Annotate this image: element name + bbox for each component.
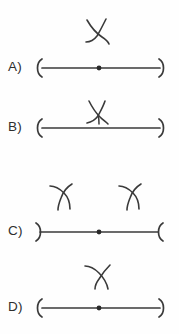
x-mark-stem [98, 115, 99, 124]
segment-line-d [0, 293, 179, 323]
x-mark-stroke-one [50, 186, 70, 209]
segment-line-c [0, 217, 179, 247]
x-mark-on-line-center-b [78, 98, 118, 132]
center-dot-a [97, 66, 102, 71]
center-dot-c [97, 230, 102, 235]
x-mark-above-left-c [44, 177, 84, 217]
diagram-canvas: A) B) [0, 0, 179, 334]
x-mark-above-right-c [113, 177, 153, 217]
x-mark-stroke-one [119, 186, 139, 209]
x-mark-above-center-a [78, 13, 118, 53]
center-dot-d [97, 306, 102, 311]
segment-line-a [0, 53, 179, 83]
right-endpoint-bracket-c [159, 223, 164, 241]
x-mark-above-center-d [80, 258, 120, 296]
left-endpoint-bracket-c [36, 223, 41, 241]
x-mark-stroke-one [85, 266, 108, 289]
x-mark-stroke-one [87, 20, 109, 44]
